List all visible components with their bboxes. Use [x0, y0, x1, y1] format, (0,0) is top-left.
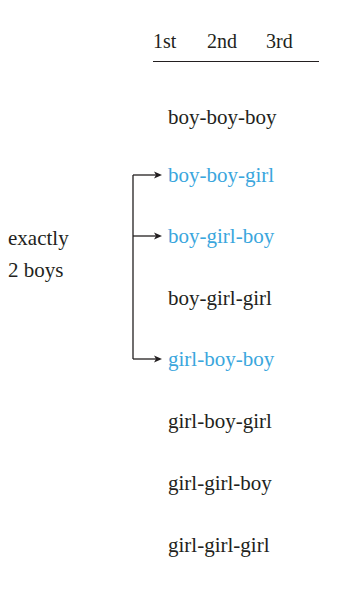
- bracket-arrows-icon: [0, 0, 337, 592]
